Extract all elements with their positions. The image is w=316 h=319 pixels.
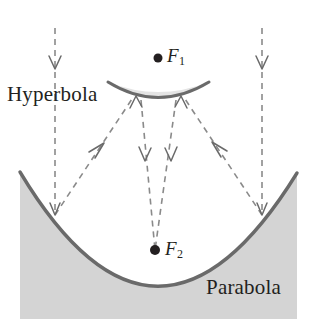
optics-diagram-figure: Hyperbola Parabola F1 F2 (0, 0, 316, 319)
diagram-canvas (0, 0, 316, 319)
arrowhead-right-hits-secondary (175, 96, 187, 108)
focus-two-label: F2 (165, 239, 183, 260)
hyperbola-secondary-mirror (108, 82, 209, 98)
focus-two-letter: F (165, 238, 177, 259)
ray-arrowheads (49, 56, 268, 215)
focus-one-letter: F (167, 45, 179, 66)
focus-one-label: F1 (167, 46, 185, 67)
hyperbola-label: Hyperbola (7, 84, 97, 105)
arrowhead-left-hits-secondary (130, 96, 142, 108)
ray-reflected-left (55, 96, 134, 215)
ray-secondary-to-f2-left (141, 100, 155, 250)
arrowhead-reflected-right (212, 142, 227, 157)
focus-two-dot (150, 245, 160, 255)
arrowhead-reflected-left (89, 143, 104, 158)
ray-secondary-to-f2-right (155, 100, 176, 250)
ray-reflected-right (183, 96, 262, 215)
arrowhead-to-f2-right (165, 147, 177, 161)
parabola-label: Parabola (206, 277, 281, 298)
focus-one-dot (154, 54, 163, 63)
focus-one-subscript: 1 (179, 54, 185, 68)
focus-two-subscript: 2 (177, 247, 183, 261)
